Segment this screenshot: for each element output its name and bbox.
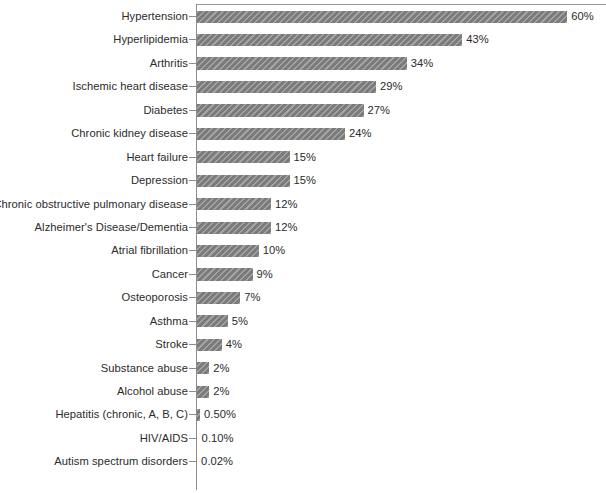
value-label: 4% xyxy=(226,333,242,356)
bar-row: Atrial fibrillation10% xyxy=(0,239,606,262)
bar-row: Heart failure15% xyxy=(0,146,606,169)
bar xyxy=(197,128,345,140)
bar xyxy=(197,175,290,187)
axis-tick xyxy=(189,110,196,111)
axis-tick xyxy=(189,274,196,275)
bar xyxy=(197,409,200,421)
bar-row: Chronic kidney disease24% xyxy=(0,122,606,145)
category-label: Asthma xyxy=(150,310,188,333)
category-label: Cancer xyxy=(152,263,188,286)
value-label: 34% xyxy=(411,52,434,75)
bar-row: Chronic obstructive pulmonary disease12% xyxy=(0,193,606,216)
horizontal-bar-chart: Hypertension60%Hyperlipidemia43%Arthriti… xyxy=(0,0,606,493)
bar xyxy=(197,362,209,374)
bar xyxy=(197,104,364,116)
bar-track: 0.02% xyxy=(197,450,606,473)
bar xyxy=(197,339,222,351)
bar xyxy=(197,34,462,46)
axis-tick xyxy=(189,39,196,40)
axis-tick xyxy=(189,250,196,251)
bar-track: 15% xyxy=(197,146,606,169)
bar xyxy=(197,292,240,304)
bar-track: 2% xyxy=(197,357,606,380)
axis-tick xyxy=(189,204,196,205)
value-label: 0.50% xyxy=(204,403,236,426)
value-label: 0.02% xyxy=(201,450,233,473)
category-label: Heart failure xyxy=(126,146,188,169)
bar-row: Diabetes27% xyxy=(0,99,606,122)
bar xyxy=(197,315,228,327)
category-label: Alcohol abuse xyxy=(117,380,188,403)
bar-track: 9% xyxy=(197,263,606,286)
bar-row: Autism spectrum disorders0.02% xyxy=(0,450,606,473)
bar-track: 5% xyxy=(197,310,606,333)
category-label: Hyperlipidemia xyxy=(113,28,188,51)
axis-tick xyxy=(189,321,196,322)
category-label: HIV/AIDS xyxy=(140,427,188,450)
bar xyxy=(197,268,253,280)
category-label: Diabetes xyxy=(143,99,188,122)
bar-track: 34% xyxy=(197,52,606,75)
axis-tick xyxy=(189,227,196,228)
bar-track: 10% xyxy=(197,239,606,262)
axis-tick xyxy=(189,86,196,87)
category-label: Arthritis xyxy=(150,52,188,75)
bar-row: Arthritis34% xyxy=(0,52,606,75)
value-label: 24% xyxy=(349,122,372,145)
axis-tick xyxy=(189,461,196,462)
value-label: 2% xyxy=(213,380,229,403)
bar-row: Ischemic heart disease29% xyxy=(0,75,606,98)
category-label: Osteoporosis xyxy=(121,286,188,309)
value-label: 2% xyxy=(213,357,229,380)
category-label: Autism spectrum disorders xyxy=(54,450,188,473)
category-label: Atrial fibrillation xyxy=(111,239,188,262)
bar-row: Asthma5% xyxy=(0,310,606,333)
bar xyxy=(197,198,271,210)
bar-track: 4% xyxy=(197,333,606,356)
value-label: 12% xyxy=(275,193,298,216)
bar xyxy=(197,57,407,69)
category-label: Depression xyxy=(131,169,188,192)
value-label: 60% xyxy=(571,5,594,28)
axis-tick xyxy=(189,344,196,345)
axis-tick xyxy=(189,414,196,415)
bar xyxy=(197,81,376,93)
value-label: 27% xyxy=(368,99,391,122)
bar-rows-container: Hypertension60%Hyperlipidemia43%Arthriti… xyxy=(0,5,606,474)
bar-row: Alzheimer's Disease/Dementia12% xyxy=(0,216,606,239)
value-label: 43% xyxy=(466,28,489,51)
category-label: Stroke xyxy=(155,333,188,356)
axis-tick xyxy=(189,63,196,64)
axis-tick xyxy=(189,391,196,392)
bar-row: Cancer9% xyxy=(0,263,606,286)
bar-row: Stroke4% xyxy=(0,333,606,356)
value-label: 12% xyxy=(275,216,298,239)
category-label: Hepatitis (chronic, A, B, C) xyxy=(55,403,188,426)
bar-row: Hyperlipidemia43% xyxy=(0,28,606,51)
value-label: 15% xyxy=(294,169,317,192)
axis-tick xyxy=(189,438,196,439)
category-label: Alzheimer's Disease/Dementia xyxy=(35,216,188,239)
value-label: 10% xyxy=(263,239,286,262)
axis-tick xyxy=(189,368,196,369)
bar-track: 2% xyxy=(197,380,606,403)
bar-track: 43% xyxy=(197,28,606,51)
value-label: 15% xyxy=(294,146,317,169)
category-label: Hypertension xyxy=(121,5,188,28)
bar-track: 12% xyxy=(197,193,606,216)
bar-track: 7% xyxy=(197,286,606,309)
value-label: 0.10% xyxy=(202,427,234,450)
bar xyxy=(197,245,259,257)
bar-row: Depression15% xyxy=(0,169,606,192)
bar-row: Hepatitis (chronic, A, B, C)0.50% xyxy=(0,403,606,426)
bar xyxy=(197,222,271,234)
bar xyxy=(197,151,290,163)
bar-track: 0.10% xyxy=(197,427,606,450)
category-label: Substance abuse xyxy=(101,357,188,380)
bar-track: 60% xyxy=(197,5,606,28)
axis-tick xyxy=(189,133,196,134)
axis-tick xyxy=(189,16,196,17)
bar-row: Alcohol abuse2% xyxy=(0,380,606,403)
category-label: Chronic obstructive pulmonary disease xyxy=(0,193,188,216)
bar xyxy=(197,386,209,398)
